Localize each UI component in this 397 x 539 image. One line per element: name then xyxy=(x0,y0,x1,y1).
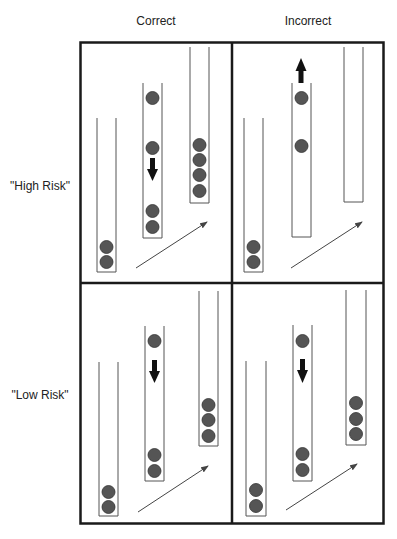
ball xyxy=(193,185,206,198)
panel-low-risk-correct xyxy=(99,291,218,516)
ball xyxy=(193,139,206,152)
ball xyxy=(295,140,308,153)
ball xyxy=(247,256,260,269)
panel-high-risk-incorrect xyxy=(244,47,363,272)
ball xyxy=(146,142,159,155)
ball xyxy=(247,241,260,254)
ball xyxy=(102,486,115,499)
tube xyxy=(344,47,363,202)
ball xyxy=(350,413,363,426)
ball xyxy=(146,92,159,105)
tube xyxy=(292,83,311,237)
ball xyxy=(202,430,215,443)
ball xyxy=(296,464,309,477)
ball xyxy=(146,205,159,218)
ball xyxy=(202,399,215,412)
panel-high-risk-correct xyxy=(97,47,209,272)
ball xyxy=(202,414,215,427)
grid-frame xyxy=(80,42,384,524)
ball xyxy=(102,501,115,514)
ball xyxy=(148,335,161,348)
ball xyxy=(193,154,206,167)
ball xyxy=(193,169,206,182)
ball xyxy=(148,449,161,462)
panel-low-risk-incorrect xyxy=(246,290,366,516)
arrow-down-icon xyxy=(297,359,308,383)
ball xyxy=(148,465,161,478)
risk-diagram xyxy=(0,0,397,539)
ball xyxy=(100,241,113,254)
ball xyxy=(250,484,263,497)
ball xyxy=(146,221,159,234)
arrow-down-icon xyxy=(149,360,160,383)
ball xyxy=(295,92,308,105)
ball xyxy=(250,500,263,513)
ball xyxy=(350,428,363,441)
arrow-up-icon xyxy=(296,58,307,83)
ball xyxy=(296,335,309,348)
ball xyxy=(350,397,363,410)
arrow-down-icon xyxy=(147,158,158,181)
trend-arrow-icon xyxy=(291,222,362,268)
ball xyxy=(296,448,309,461)
ball xyxy=(100,256,113,269)
